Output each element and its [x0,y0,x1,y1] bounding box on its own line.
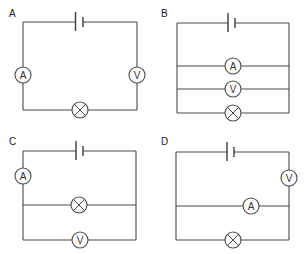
circuit-diagram-figure: A A V [0,0,307,254]
svg-text:A: A [20,70,27,81]
svg-text:V: V [286,173,293,184]
svg-text:V: V [77,235,84,246]
svg-text:A: A [20,171,27,182]
voltmeter-icon: V [225,81,241,97]
circuit-label-b: B [161,8,168,19]
lamp-icon [72,102,88,118]
ammeter-icon: A [15,168,31,184]
ammeter-icon: A [225,58,241,74]
cell-icon [76,12,84,31]
circuit-label-a: A [9,8,16,19]
circuit-diagrams-svg: A A V [0,0,307,254]
lamp-icon [225,105,241,121]
cell-icon [228,13,235,32]
circuit-d: D V A [161,136,297,248]
lamp-icon [71,197,87,213]
voltmeter-icon: V [72,232,88,248]
svg-text:A: A [230,61,237,72]
ammeter-icon: A [15,67,31,83]
circuit-a: A A V [9,8,145,118]
cell-icon [227,142,234,161]
svg-text:V: V [134,70,141,81]
ammeter-icon: A [243,198,259,214]
svg-text:A: A [248,201,255,212]
circuit-c: C A V [9,136,136,248]
cell-icon [76,141,83,160]
lamp-icon [225,232,241,248]
svg-text:V: V [230,84,237,95]
circuit-label-c: C [9,136,16,147]
voltmeter-icon: V [281,170,297,186]
voltmeter-icon: V [129,67,145,83]
circuit-b: B A V [161,8,289,121]
circuit-label-d: D [161,136,168,147]
